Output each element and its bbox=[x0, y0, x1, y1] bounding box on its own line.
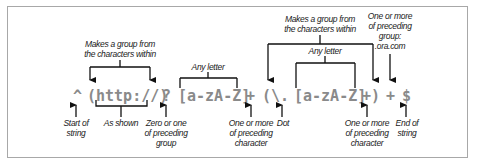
regex-class-1: [a-zA-Z] bbox=[178, 87, 250, 105]
annotation-any-letter-1-text: Any letter bbox=[191, 62, 226, 72]
annotation-end-line2: string bbox=[398, 128, 418, 138]
annotation-start-line2: string bbox=[67, 128, 87, 138]
annotation-any-letter-2: Any letter bbox=[296, 46, 355, 88]
regex-class-2: [a-zA-Z] bbox=[294, 87, 366, 105]
bracket-any-letter-2 bbox=[296, 56, 355, 88]
annotation-one-or-more-char-2-line3: character bbox=[351, 138, 385, 148]
bracket-group-2 bbox=[268, 35, 373, 44]
regex-plus-close: +) bbox=[362, 87, 380, 105]
annotation-any-letter-1: Any letter bbox=[180, 62, 237, 88]
annotation-start-line1: Start of bbox=[63, 118, 90, 128]
regex-group-http: (http://) bbox=[87, 87, 168, 105]
annotation-one-or-more-group-line3: group: bbox=[379, 31, 402, 41]
annotation-group-2-line1: Makes a group from bbox=[285, 14, 355, 24]
annotation-one-or-more-char-1-line2: of preceding bbox=[229, 128, 273, 138]
regex-expression: ^ (http://) ? [a-zA-Z] + (\. [a-zA-Z] +)… bbox=[73, 87, 411, 105]
annotation-any-letter-2-text: Any letter bbox=[308, 46, 343, 56]
annotation-one-or-more-char-1: One or more of preceding character bbox=[229, 105, 274, 148]
bracket-any-letter-1 bbox=[180, 72, 237, 88]
annotation-dot: Dot bbox=[277, 105, 290, 128]
annotation-group-1-line1: Makes a group from bbox=[85, 39, 155, 49]
regex-diagram: ^ (http://) ? [a-zA-Z] + (\. [a-zA-Z] +)… bbox=[0, 0, 479, 166]
regex-caret: ^ bbox=[73, 87, 82, 105]
annotation-one-or-more-char-1-line3: character bbox=[235, 138, 269, 148]
annotation-end: End of string bbox=[396, 105, 421, 138]
annotation-one-or-more-char-2: One or more of preceding character bbox=[345, 105, 390, 148]
regex-dollar: $ bbox=[402, 87, 411, 105]
annotation-one-or-more-char-2-line2: of preceding bbox=[345, 128, 389, 138]
annotation-one-or-more-char-1-line1: One or more bbox=[229, 118, 274, 128]
annotation-as-shown-text: As shown bbox=[103, 118, 139, 128]
annotation-start: Start of string bbox=[63, 105, 90, 138]
annotation-end-line1: End of bbox=[396, 118, 421, 128]
annotation-group-1-line2: the characters within bbox=[84, 49, 156, 59]
annotation-zero-or-one: Zero or one of preceding group bbox=[144, 105, 188, 148]
annotation-zero-or-one-line2: of preceding bbox=[144, 128, 188, 138]
annotation-one-or-more-group-line2: of preceding bbox=[368, 21, 412, 31]
regex-plus-1: + bbox=[246, 87, 255, 105]
annotation-one-or-more-group: One or more of preceding group: .ora.com bbox=[368, 11, 413, 80]
annotation-group-1: Makes a group from the characters within bbox=[84, 39, 156, 80]
regex-group2-open: (\. bbox=[262, 87, 289, 105]
regex-question: ? bbox=[162, 87, 171, 105]
annotation-one-or-more-group-line1: One or more bbox=[368, 11, 413, 21]
annotation-dot-text: Dot bbox=[277, 118, 290, 128]
annotation-one-or-more-group-line4: .ora.com bbox=[375, 41, 406, 51]
bracket-group-1 bbox=[90, 60, 150, 67]
regex-plus-3: + bbox=[386, 87, 395, 105]
annotation-group-2-line2: the characters within bbox=[284, 24, 356, 34]
annotation-zero-or-one-line1: Zero or one bbox=[145, 118, 187, 128]
annotation-zero-or-one-line3: group bbox=[156, 138, 177, 148]
annotation-one-or-more-char-2-line1: One or more bbox=[345, 118, 390, 128]
